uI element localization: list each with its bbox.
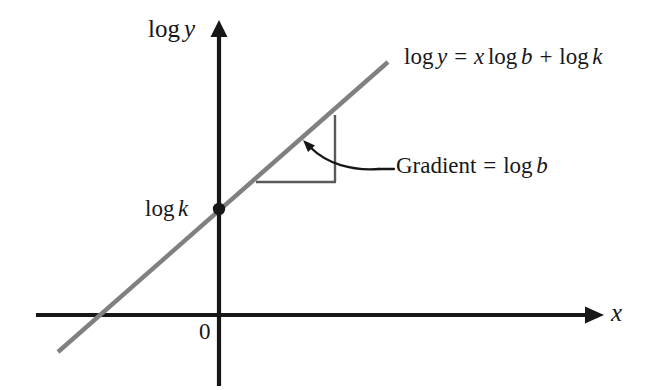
x-axis-label: x [611,300,622,325]
y-axis-label-log: log [148,15,180,42]
equation-var-x: x [474,44,484,69]
gradient-label: Gradient=logb [396,154,548,177]
gradient-label-var-b: b [536,153,548,178]
curved-arrow-icon [310,147,379,169]
dot-icon [213,203,225,215]
equation-plus: + [539,44,552,69]
equation-var-y: y [437,44,447,69]
gradient-label-equals: = [483,153,496,178]
gradient-label-word: Gradient [396,153,476,178]
arrow-right-icon [585,307,604,324]
figure-canvas: logy x logy=xlogb+logk Gradient=logb log… [0,0,645,390]
y-axis-label-var: y [184,15,195,42]
intercept-label-log: log [145,196,174,221]
equation-log-2: log [488,44,517,69]
equation-var-b: b [521,44,533,69]
equation-log-3: log [559,44,588,69]
arrow-up-icon [211,20,228,37]
y-axis-label: logy [148,16,195,41]
intercept-label: logk [145,197,188,220]
equation-var-k: k [592,44,602,69]
equation-equals: = [454,44,467,69]
gradient-label-log: log [503,153,532,178]
equation-label: logy=xlogb+logk [404,45,603,68]
intercept-label-var-k: k [178,196,188,221]
equation-log-1: log [404,44,433,69]
origin-label: 0 [199,320,211,343]
